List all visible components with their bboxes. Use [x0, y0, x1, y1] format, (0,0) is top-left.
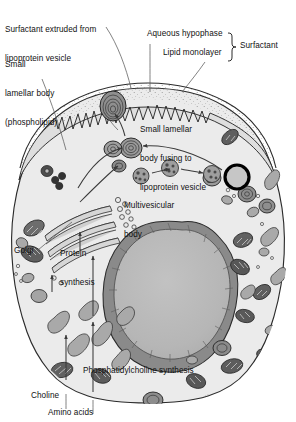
leader-surfactant-extruded [106, 27, 131, 88]
label-protein-synthesis: Protein synthesis [60, 230, 95, 307]
lipoprotein-vesicle [225, 165, 249, 189]
leader-lipid-monolayer [182, 62, 205, 92]
label-surfactant-bracket: Surfactant [240, 41, 278, 51]
figure-canvas: Surfactant extruded from lipoprotein ves… [0, 0, 296, 422]
lamellar-body-extruding [100, 91, 126, 121]
surfactant-brace [228, 33, 236, 61]
label-golgi: Golgi [14, 246, 33, 256]
label-multivesicular-body: Multivesicular body [124, 182, 174, 259]
label-lipid-monolayer: Lipid monolayer [163, 48, 222, 58]
label-choline: Choline [31, 391, 59, 401]
label-small-lamellar-body: Small lamellar body (phospholipid) [5, 41, 57, 147]
label-aqueous-hypophase: Aqueous hypophase [147, 29, 223, 39]
label-phosphatidylcholine-synthesis: Phosphatidylcholine synthesis [83, 366, 194, 376]
label-amino-acids: Amino acids [48, 408, 93, 418]
